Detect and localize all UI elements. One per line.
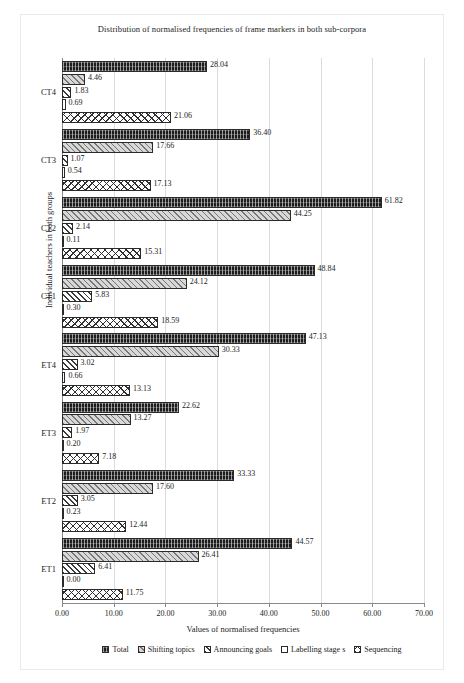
bar-row: 21.06 [62,112,424,123]
bar-shift[interactable] [62,210,291,221]
bar-seq[interactable] [62,248,141,259]
x-tick-label: 10.00 [94,609,134,618]
bar-row: 44.57 [62,538,424,549]
bar-announce[interactable] [62,155,68,166]
bar-shift[interactable] [62,414,131,425]
bar-row: 11.75 [62,589,424,600]
bar-seq[interactable] [62,180,151,191]
bar-seq[interactable] [62,112,171,123]
bar-value-label: 3.05 [81,494,95,503]
bar-total[interactable] [62,129,250,140]
bar-announce[interactable] [62,359,78,370]
bar-row: 13.27 [62,414,424,425]
bar-total[interactable] [62,197,382,208]
bar-row: 0.69 [62,99,424,110]
bar-label[interactable] [62,167,65,178]
bar-value-label: 7.18 [102,452,116,461]
bar-row: 0.66 [62,372,424,383]
bar-value-label: 47.13 [309,332,327,341]
bar-shift[interactable] [62,142,153,153]
legend-item[interactable]: Announcing goals [204,645,272,654]
bar-row: 33.33 [62,470,424,481]
bar-value-label: 11.75 [126,588,144,597]
bar-group: 28.044.461.830.6921.06 [62,61,424,129]
bar-group: 22.6213.271.970.207.18 [62,402,424,470]
category-label-et2: ET2 [22,496,56,506]
bar-row: 1.97 [62,427,424,438]
bar-label[interactable] [62,99,66,110]
bar-announce[interactable] [62,427,72,438]
plot-area: Individual teachers in both groups 0.001… [62,58,424,603]
bar-label[interactable] [62,576,64,587]
bar-row: 22.62 [62,402,424,413]
legend-item[interactable]: Shifting topics [138,645,195,654]
bar-announce[interactable] [62,87,71,98]
bar-label[interactable] [62,304,64,315]
legend-item[interactable]: Sequencing [354,645,401,654]
bar-row: 0.00 [62,576,424,587]
bar-row: 12.44 [62,521,424,532]
chart-title: Distribution of normalised frequencies o… [0,24,464,34]
legend-swatch-icon [102,646,109,653]
bar-row: 13.13 [62,385,424,396]
bar-shift[interactable] [62,346,219,357]
bar-seq[interactable] [62,453,99,464]
legend-swatch-icon [354,646,361,653]
bar-seq[interactable] [62,521,126,532]
bar-announce[interactable] [62,563,95,574]
bar-row: 1.83 [62,87,424,98]
bar-shift[interactable] [62,483,153,494]
bar-announce[interactable] [62,291,92,302]
bar-value-label: 61.82 [385,196,403,205]
bar-label[interactable] [62,372,65,383]
bar-total[interactable] [62,265,315,276]
bar-row: 0.30 [62,304,424,315]
bar-label[interactable] [62,440,64,451]
bar-shift[interactable] [62,551,199,562]
bar-value-label: 0.11 [67,235,81,244]
bar-row: 5.83 [62,291,424,302]
bar-value-label: 4.46 [88,73,102,82]
legend-label: Announcing goals [214,645,272,654]
bar-announce[interactable] [62,223,73,234]
category-label-et3: ET3 [22,428,56,438]
bar-seq[interactable] [62,317,158,328]
chart-legend: TotalShifting topicsAnnouncing goalsLabe… [62,645,442,654]
bar-total[interactable] [62,470,234,481]
bar-total[interactable] [62,402,179,413]
bar-value-label: 17.60 [156,482,174,491]
legend-label: Labelling stage s [291,645,345,654]
x-tick-label: 50.00 [301,609,341,618]
bar-seq[interactable] [62,589,123,600]
x-tick [424,603,425,607]
bar-total[interactable] [62,61,207,72]
bar-total[interactable] [62,333,306,344]
legend-item[interactable]: Total [102,645,128,654]
bar-total[interactable] [62,538,292,549]
bar-value-label: 5.83 [95,290,109,299]
bar-row: 18.59 [62,317,424,328]
bar-label[interactable] [62,236,64,247]
bar-value-label: 2.14 [76,222,90,231]
bar-shift[interactable] [62,74,85,85]
legend-label: Sequencing [364,645,401,654]
legend-item[interactable]: Labelling stage s [281,645,345,654]
chart-page: Distribution of normalised frequencies o… [0,0,464,683]
bar-group: 36.4017.661.070.5417.13 [62,129,424,197]
bar-group: 61.8244.252.140.1115.31 [62,197,424,265]
bar-value-label: 48.84 [318,264,336,273]
bar-shift[interactable] [62,278,187,289]
bar-value-label: 44.25 [294,209,312,218]
bar-row: 30.33 [62,346,424,357]
bar-row: 17.13 [62,180,424,191]
x-tick-label: 40.00 [249,609,289,618]
bar-row: 0.11 [62,236,424,247]
bar-row: 48.84 [62,265,424,276]
category-label-et4: ET4 [22,360,56,370]
bar-announce[interactable] [62,495,78,506]
bar-value-label: 0.00 [67,575,81,584]
bar-row: 6.41 [62,563,424,574]
bar-seq[interactable] [62,385,130,396]
bar-group: 33.3317.603.050.2312.44 [62,470,424,538]
bar-label[interactable] [62,508,64,519]
